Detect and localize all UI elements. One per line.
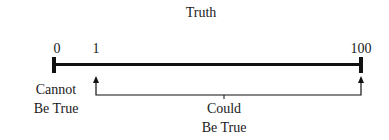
could-line2: Be True	[202, 118, 247, 137]
tick-100	[359, 57, 363, 73]
cannot-line1: Cannot	[34, 80, 79, 99]
arrow-up-icon	[93, 76, 99, 83]
cannot-line2: Be True	[34, 99, 79, 118]
tick-0	[52, 57, 56, 73]
could-line1: Could	[202, 99, 247, 118]
arrow-up-icon	[358, 76, 364, 83]
could-be-true-bracket	[96, 80, 361, 95]
cannot-be-true-label: Cannot Be True	[34, 80, 79, 118]
could-be-true-label: Could Be True	[202, 99, 247, 137]
scale-graphic	[0, 0, 389, 140]
